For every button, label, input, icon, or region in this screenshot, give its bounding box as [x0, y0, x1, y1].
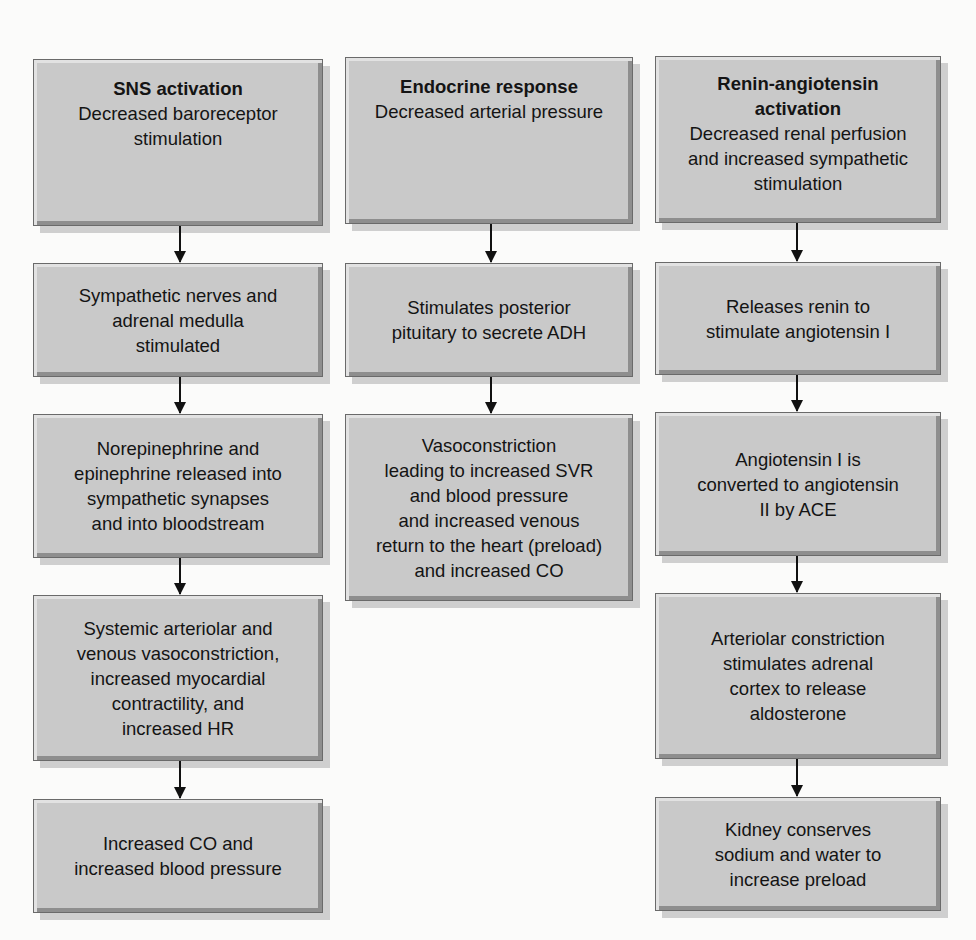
box-text-line: Sympathetic nerves and	[79, 283, 277, 308]
box-text-line: Systemic arteriolar and	[83, 616, 272, 641]
arrow-down-icon	[796, 556, 798, 592]
renin-angiotensin-title-line2: activation	[755, 96, 841, 121]
box-text-line: Decreased renal perfusion	[690, 121, 907, 146]
releases-renin-box: Releases renin to stimulate angiotensin …	[655, 262, 941, 375]
box-text-line: and increased venous	[398, 508, 579, 533]
box-text-line: stimulation	[754, 171, 842, 196]
kidney-conserves-box: Kidney conserves sodium and water to inc…	[655, 797, 941, 911]
box-text-line: Vasoconstriction	[422, 433, 556, 458]
renin-angiotensin-title: Renin-angiotensin	[717, 71, 878, 96]
box-text-line: and blood pressure	[410, 483, 568, 508]
box-text-line: Decreased arterial pressure	[375, 99, 603, 124]
vasoconstriction-svr-box: Vasoconstriction leading to increased SV…	[345, 414, 633, 601]
box-text-line: Releases renin to	[726, 294, 870, 319]
box-text-line: Increased CO and	[103, 831, 253, 856]
angiotensin-conversion-box: Angiotensin I is converted to angiotensi…	[655, 412, 941, 556]
box-text-line: increased myocardial	[91, 666, 266, 691]
arrow-down-icon	[490, 224, 492, 262]
box-text-line: stimulate angiotensin I	[706, 319, 890, 344]
box-text-line: and increased sympathetic	[688, 146, 908, 171]
box-text-line: II by ACE	[759, 497, 836, 522]
renin-angiotensin-box: Renin-angiotensin activation Decreased r…	[655, 56, 941, 223]
box-text-line: increase preload	[730, 867, 867, 892]
box-text-line: increased HR	[122, 716, 234, 741]
arrow-down-icon	[490, 377, 492, 413]
sns-activation-title: SNS activation	[113, 76, 243, 101]
box-text-line: cortex to release	[730, 676, 867, 701]
box-text-line: Stimulates posterior	[407, 295, 570, 320]
box-text-line: leading to increased SVR	[385, 458, 594, 483]
box-text-line: Decreased baroreceptor	[78, 101, 278, 126]
box-text-line: contractility, and	[112, 691, 244, 716]
box-text-line: aldosterone	[750, 701, 847, 726]
vasoconstriction-hr-box: Systemic arteriolar and venous vasoconst…	[33, 595, 323, 761]
arrow-down-icon	[796, 759, 798, 796]
endocrine-response-title: Endocrine response	[400, 74, 578, 99]
arrow-down-icon	[179, 558, 181, 594]
increased-co-bp-box: Increased CO and increased blood pressur…	[33, 799, 323, 913]
box-text-line: and into bloodstream	[92, 511, 265, 536]
sns-activation-box: SNS activation Decreased baroreceptor st…	[33, 59, 323, 226]
posterior-pituitary-box: Stimulates posterior pituitary to secret…	[345, 263, 633, 377]
box-text-line: stimulated	[136, 333, 220, 358]
box-text-line: sympathetic synapses	[87, 486, 269, 511]
box-text-line: Norepinephrine and	[97, 436, 260, 461]
box-text-line: increased blood pressure	[74, 856, 282, 881]
sympathetic-nerves-box: Sympathetic nerves and adrenal medulla s…	[33, 263, 323, 377]
box-text-line: Angiotensin I is	[735, 447, 860, 472]
arrow-down-icon	[179, 761, 181, 798]
aldosterone-release-box: Arteriolar constriction stimulates adren…	[655, 593, 941, 759]
box-text-line: Kidney conserves	[725, 817, 871, 842]
arrow-down-icon	[796, 375, 798, 411]
norepinephrine-release-box: Norepinephrine and epinephrine released …	[33, 414, 323, 558]
box-text-line: venous vasoconstriction,	[77, 641, 280, 666]
endocrine-response-box: Endocrine response Decreased arterial pr…	[345, 57, 633, 224]
box-text-line: stimulates adrenal	[723, 651, 873, 676]
box-text-line: stimulation	[134, 126, 222, 151]
arrow-down-icon	[179, 226, 181, 262]
box-text-line: and increased CO	[414, 558, 563, 583]
box-text-line: Arteriolar constriction	[711, 626, 885, 651]
box-text-line: sodium and water to	[715, 842, 882, 867]
box-text-line: adrenal medulla	[112, 308, 244, 333]
box-text-line: epinephrine released into	[74, 461, 282, 486]
box-text-line: pituitary to secrete ADH	[392, 320, 586, 345]
arrow-down-icon	[796, 223, 798, 261]
arrow-down-icon	[179, 377, 181, 413]
box-text-line: return to the heart (preload)	[376, 533, 602, 558]
box-text-line: converted to angiotensin	[697, 472, 899, 497]
